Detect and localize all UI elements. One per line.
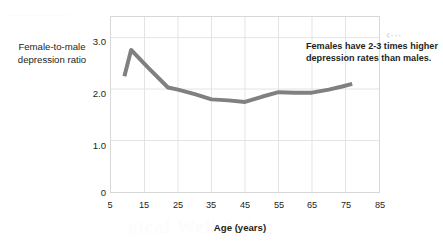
x-axis-title: Age (years) (170, 222, 310, 233)
x-tick-label-25: 25 (167, 200, 189, 210)
x-tick-label-75: 75 (335, 200, 357, 210)
y-tick-label-0: 0 (72, 188, 106, 198)
left-chevron-icon: ‹··· (386, 27, 405, 43)
x-tick-label-5: 5 (99, 200, 121, 210)
x-tick-label-55: 55 (268, 200, 290, 210)
plot-area: Females have 2-3 times higher depression… (110, 16, 380, 193)
y-axis-title-line-2: depression ratio (2, 53, 102, 66)
y-tick-label-1: 1.0 (72, 141, 106, 151)
x-tick-label-35: 35 (200, 200, 222, 210)
y-tick-label-3: 3.0 (72, 37, 106, 47)
x-tick-label-45: 45 (234, 200, 256, 210)
y-tick-label-2: 2.0 (72, 89, 106, 99)
page-bleedthrough-artifact-top: ———— (6, 6, 70, 23)
x-tick-label-15: 15 (133, 200, 155, 210)
x-tick-label-85: 85 (369, 200, 391, 210)
chart-annotation: Females have 2-3 times higher depression… (306, 41, 443, 64)
x-tick-label-65: 65 (301, 200, 323, 210)
